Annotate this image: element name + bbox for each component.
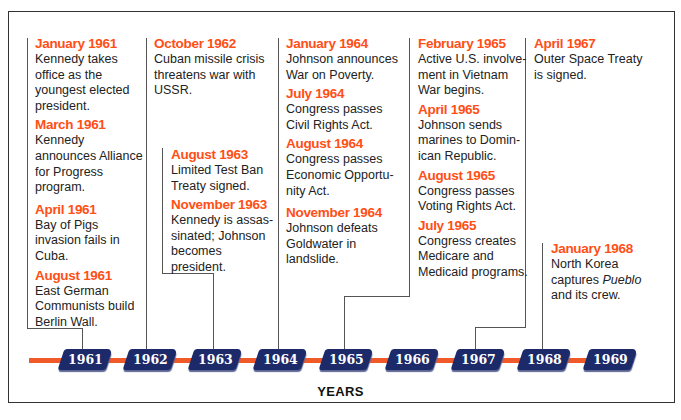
year-tab-1964: 1964: [253, 349, 308, 370]
event-date: March 1961: [35, 117, 143, 133]
event-description: Johnson sends marines to Domin-ican Repu…: [418, 118, 528, 165]
event-date: July 1964: [286, 86, 401, 102]
connector-1967-h: [475, 327, 526, 328]
year-tab-1966: 1966: [385, 349, 440, 370]
event-date: August 1965: [418, 168, 528, 184]
event-description: Johnson announces War on Poverty.: [286, 52, 401, 83]
event-date: July 1965: [418, 218, 528, 234]
event-date: January 1964: [286, 36, 401, 52]
event-description: Cuban missile crisis threatens war with …: [154, 52, 269, 99]
year-tab-1967: 1967: [451, 349, 506, 370]
year-tab-1968: 1968: [517, 349, 572, 370]
connector-1965-h: [344, 296, 410, 297]
event-date: April 1961: [35, 202, 143, 218]
event-date: November 1964: [286, 205, 401, 221]
timeline-diagram: January 1961 Kennedy takes office as the…: [0, 0, 681, 420]
event-date: October 1962: [154, 36, 269, 52]
event-description: Kennedy is assas-sinated; Johnson become…: [171, 213, 276, 275]
event-description: Active U.S. involve-ment in Vietnam War …: [418, 52, 528, 99]
year-tab-1965: 1965: [319, 349, 374, 370]
event-description: Kennedy announces Alliance for Progress …: [35, 133, 143, 195]
event-description: Kennedy takes office as the youngest ele…: [35, 52, 143, 114]
event-date: April 1967: [534, 36, 654, 52]
event-column-1968: January 1968 North Korea captures Pueblo…: [551, 241, 661, 307]
event-date: August 1961: [35, 268, 143, 284]
year-tab-1963: 1963: [188, 349, 243, 370]
connector-1968: [542, 243, 543, 352]
connector-1963-v2: [213, 273, 214, 352]
year-tab-1962: 1962: [123, 349, 178, 370]
connector-1962: [146, 38, 147, 352]
year-tab-1969: 1969: [583, 349, 638, 370]
event-column-1964: January 1964 Johnson announces War on Po…: [286, 36, 401, 271]
event-column-1965: February 1965 Active U.S. involve-ment i…: [418, 36, 528, 284]
event-date: January 1961: [35, 36, 143, 52]
event-date: February 1965: [418, 36, 528, 52]
event-date: November 1963: [171, 197, 276, 213]
event-description: Congress passes Civil Rights Act.: [286, 102, 401, 133]
connector-1964: [278, 38, 279, 352]
event-column-1962: October 1962 Cuban missile crisis threat…: [154, 36, 269, 102]
event-date: January 1968: [551, 241, 661, 257]
event-description: North Korea captures Pueblo and its crew…: [551, 257, 661, 304]
year-tab-1961: 1961: [58, 349, 113, 370]
event-date: August 1963: [171, 147, 276, 163]
event-column-1963: August 1963 Limited Test Ban Treaty sign…: [171, 147, 276, 279]
ship-name: Pueblo: [602, 273, 641, 287]
connector-1965-v2: [344, 296, 345, 352]
connector-1963-v1: [162, 148, 163, 273]
event-description: Outer Space Treaty is signed.: [534, 52, 654, 83]
event-description: Limited Test Ban Treaty signed.: [171, 163, 276, 194]
event-description: Congress passes Voting Rights Act.: [418, 184, 528, 215]
event-column-1967: April 1967 Outer Space Treaty is signed.: [534, 36, 654, 86]
event-description: Congress creates Medicare and Medicaid p…: [418, 234, 528, 281]
event-description: East German Communists build Berlin Wall…: [35, 284, 143, 331]
connector-1965-v1: [409, 38, 410, 297]
event-description: Congress passes Economic Opportu-nity Ac…: [286, 152, 401, 199]
event-column-1961: January 1961 Kennedy takes office as the…: [35, 36, 143, 333]
axis-label: YEARS: [0, 384, 681, 399]
event-description: Johnson defeats Goldwater in landslide.: [286, 221, 401, 268]
event-description-text: and its crew.: [551, 288, 620, 302]
event-description: Bay of Pigs invasion fails in Cuba.: [35, 218, 143, 265]
event-date: August 1964: [286, 136, 401, 152]
event-date: April 1965: [418, 102, 528, 118]
connector-1961-v1: [27, 38, 28, 328]
